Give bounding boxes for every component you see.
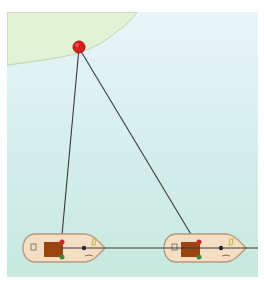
starboard-light-icon [60, 255, 65, 260]
port-light-icon [197, 240, 202, 245]
shore-point [73, 41, 85, 53]
port-light-icon [60, 240, 65, 245]
diagram-canvas [7, 12, 258, 277]
starboard-light-icon [197, 255, 202, 260]
shore-point-highlight [75, 43, 79, 47]
boat-cabin [181, 242, 200, 257]
boat-cabin [44, 242, 63, 257]
diagram-panel [7, 12, 258, 277]
